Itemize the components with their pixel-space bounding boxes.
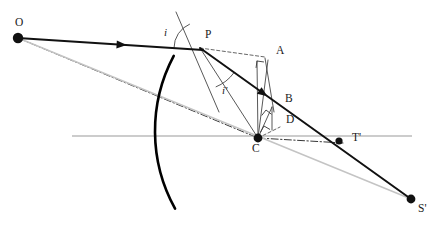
point-label-T: T' <box>352 132 361 144</box>
point-label-A: A <box>276 45 284 57</box>
reflected-ray-P-to-S <box>200 48 411 199</box>
point-label-P: P <box>205 29 211 41</box>
construction-lines-group <box>18 12 411 199</box>
diagram-canvas <box>0 0 440 242</box>
point-label-O: O <box>15 17 23 29</box>
point-label-B: B <box>285 93 293 105</box>
concave-spherical-mirror-arc <box>155 56 175 209</box>
optics-ray-diagram: OPABDCT'S'ii' <box>0 0 440 242</box>
mirror-arc-group <box>155 56 175 209</box>
point-label-S: S' <box>418 203 426 215</box>
point-label-D: D <box>286 114 294 126</box>
angle-arc-i <box>174 24 190 48</box>
point-marker-T <box>335 137 342 144</box>
point-label-C: C <box>252 143 260 155</box>
chord-O-to-S <box>18 38 411 199</box>
normal-line-at-P <box>176 12 219 112</box>
angle-label-iprime: i' <box>222 85 227 96</box>
point-marker-S <box>407 195 416 204</box>
thin-C-to-A <box>257 61 258 138</box>
thin-A-to-B <box>265 58 274 112</box>
incident-ray-O-to-P-arrowhead <box>116 40 126 49</box>
point-marker-O <box>13 33 23 43</box>
angle-label-i: i <box>164 27 167 38</box>
